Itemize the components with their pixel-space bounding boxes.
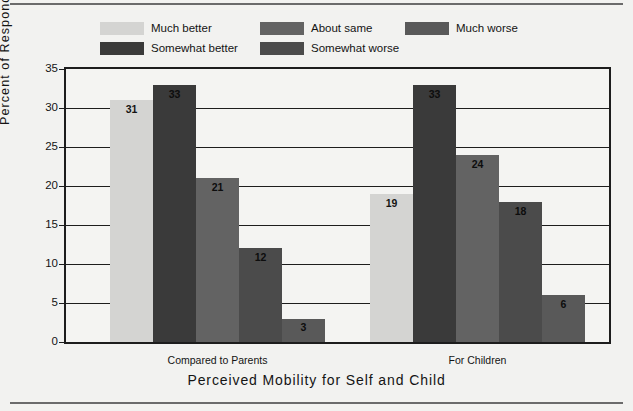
y-tick-label: 35 xyxy=(30,62,58,74)
legend-item-somewhat-worse: Somewhat worse xyxy=(260,41,399,55)
y-tick-label: 30 xyxy=(30,101,58,113)
chart-legend: Much better Somewhat better About same S… xyxy=(100,21,530,57)
bar-value-label: 18 xyxy=(499,205,542,217)
bar-value-label: 33 xyxy=(153,88,196,100)
bar-value-label: 19 xyxy=(370,197,413,209)
bar: 18 xyxy=(499,202,542,342)
bar: 31 xyxy=(110,100,153,342)
legend-label-much-better: Much better xyxy=(151,22,212,35)
legend-swatch-much-better xyxy=(100,22,144,35)
bar: 19 xyxy=(370,194,413,342)
bar-value-label: 33 xyxy=(413,88,456,100)
bar-value-label: 24 xyxy=(456,158,499,170)
bar: 33 xyxy=(153,85,196,342)
bar: 33 xyxy=(413,85,456,342)
x-group-label: Compared to Parents xyxy=(168,354,268,366)
x-group-label: For Children xyxy=(449,354,507,366)
y-axis-title: Percent of Respondents xyxy=(0,0,12,125)
bar: 24 xyxy=(456,155,499,342)
legend-label-somewhat-better: Somewhat better xyxy=(151,42,238,55)
legend-label-somewhat-worse: Somewhat worse xyxy=(311,42,399,55)
plot-inner: 313321123193324186 xyxy=(66,69,609,342)
x-axis-title: Perceived Mobility for Self and Child xyxy=(0,372,633,388)
plot-area: 313321123193324186 xyxy=(64,67,611,344)
legend-label-about-same: About same xyxy=(311,22,372,35)
y-tick-label: 15 xyxy=(30,218,58,230)
bar: 21 xyxy=(196,178,239,342)
bar-value-label: 6 xyxy=(542,298,585,310)
bar-value-label: 21 xyxy=(196,181,239,193)
legend-swatch-much-worse xyxy=(405,22,449,35)
legend-item-much-worse: Much worse xyxy=(405,21,518,35)
y-tick-label: 25 xyxy=(30,140,58,152)
legend-swatch-somewhat-worse xyxy=(260,42,304,55)
top-divider-rule xyxy=(10,3,623,5)
legend-item-somewhat-better: Somewhat better xyxy=(100,41,238,55)
y-tick-label: 0 xyxy=(30,335,58,347)
legend-item-about-same: About same xyxy=(260,21,372,35)
bar: 12 xyxy=(239,248,282,342)
bar-value-label: 12 xyxy=(239,251,282,263)
legend-label-much-worse: Much worse xyxy=(456,22,518,35)
bar-value-label: 31 xyxy=(110,103,153,115)
y-tick-label: 10 xyxy=(30,257,58,269)
legend-item-much-better: Much better xyxy=(100,21,212,35)
y-tick-label: 5 xyxy=(30,296,58,308)
bar-value-label: 3 xyxy=(282,321,325,333)
bar: 6 xyxy=(542,295,585,342)
bar: 3 xyxy=(282,319,325,342)
legend-swatch-about-same xyxy=(260,22,304,35)
legend-swatch-somewhat-better xyxy=(100,42,144,55)
y-tick-label: 20 xyxy=(30,179,58,191)
bottom-divider-rule xyxy=(10,402,623,404)
chart-figure: Much better Somewhat better About same S… xyxy=(0,0,633,411)
